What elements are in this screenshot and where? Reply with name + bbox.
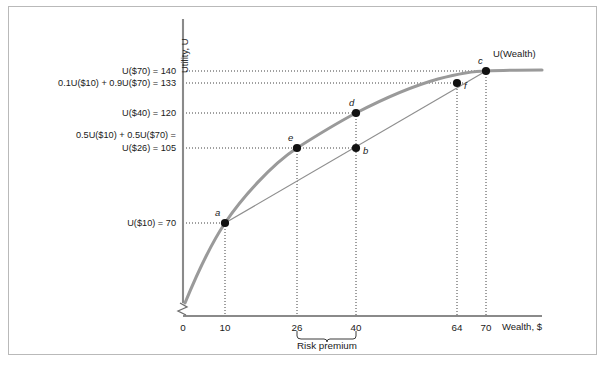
x-tick-70: 70 <box>476 322 496 333</box>
point-label-d: d <box>349 98 354 109</box>
y-axis-title: Utility, U <box>180 38 191 73</box>
y-label-u10: U($10) = 70 <box>9 218 176 229</box>
figure-frame: Utility, U U($70) = 140 0.1U($10) + 0.9U… <box>8 6 597 355</box>
point-label-f: f <box>464 81 467 92</box>
x-tick-40: 40 <box>346 322 366 333</box>
x-axis-title: Wealth, $ <box>502 322 542 333</box>
y-label-u26: U($26) = 105 <box>9 143 176 154</box>
figure-screenshot: Utility, U U($70) = 140 0.1U($10) + 0.9U… <box>0 0 615 372</box>
point-a <box>221 219 229 227</box>
point-label-b: b <box>363 146 368 157</box>
point-e <box>293 144 301 152</box>
vertical-guidelines <box>225 71 486 316</box>
point-label-a: a <box>215 208 220 219</box>
y-label-u70: U($70) = 140 <box>9 66 176 77</box>
utility-curve <box>185 70 542 303</box>
y-label-u40: U($40) = 120 <box>9 108 176 119</box>
horizontal-guidelines <box>183 71 488 223</box>
point-f <box>453 79 461 87</box>
data-points <box>221 67 490 227</box>
point-d <box>352 109 360 117</box>
x-tick-64: 64 <box>447 322 467 333</box>
risk-premium-label: Risk premium <box>292 340 362 351</box>
point-label-e: e <box>288 133 293 144</box>
x-tick-0: 0 <box>173 322 193 333</box>
point-b <box>352 144 360 152</box>
axis-break-zigzag <box>178 303 187 315</box>
point-label-c: c <box>478 56 483 67</box>
utility-curve-label: U(Wealth) <box>493 49 536 60</box>
y-label-mix-10-90: 0.1U($10) + 0.9U($70) = 133 <box>9 78 176 89</box>
point-c <box>482 67 490 75</box>
y-label-mix-50-50: 0.5U($10) + 0.5U($70) = <box>9 130 176 141</box>
x-tick-26: 26 <box>287 322 307 333</box>
x-tick-10: 10 <box>215 322 235 333</box>
